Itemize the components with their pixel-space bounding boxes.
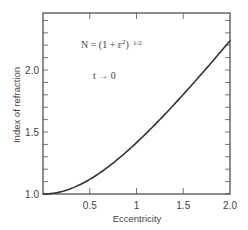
y-tick-label: 2.0 — [25, 65, 39, 76]
y-tick-label: 1.0 — [25, 189, 39, 200]
x-tick-label: 1 — [134, 200, 140, 211]
refraction-curve — [43, 41, 230, 194]
limit-annotation: t → 0 — [93, 70, 116, 81]
y-axis-title: Index of refraction — [11, 67, 22, 143]
y-tick-label: 1.5 — [25, 127, 39, 138]
x-tick-label: 1.5 — [176, 200, 190, 211]
chart: 0.511.52.0 1.01.52.0 N = (1 + ε2)1/2 t →… — [0, 0, 248, 230]
x-axis-title: Eccentricity — [113, 213, 162, 224]
x-tick-label: 0.5 — [83, 200, 97, 211]
formula-annotation: N = (1 + ε2)1/2 — [81, 38, 142, 51]
x-tick-label: 2.0 — [223, 200, 237, 211]
